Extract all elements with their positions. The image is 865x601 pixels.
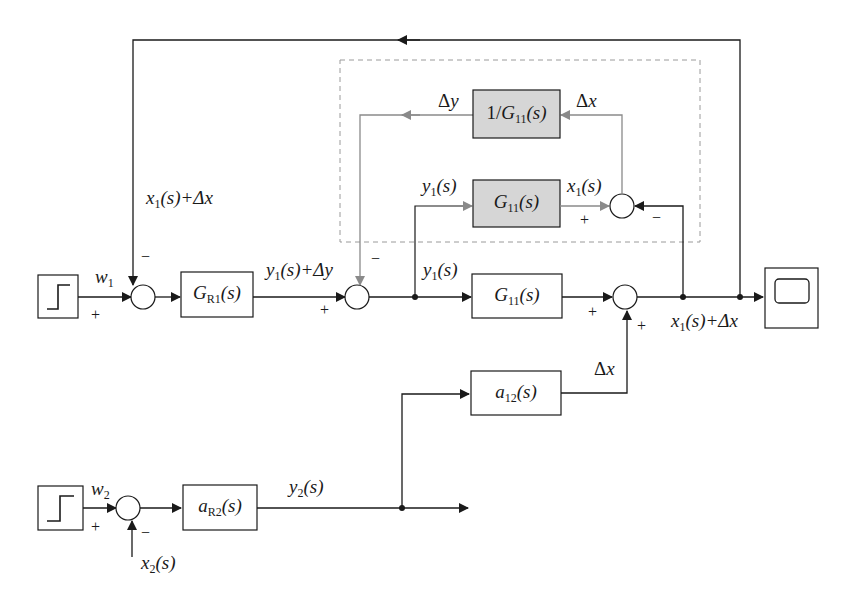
step-input-1-icon [38,275,78,318]
inner-sum-junction [610,194,634,218]
label-y2: y2(s) [289,477,324,499]
sign-sum3-bottom: + [637,318,646,334]
step-input-2-icon [38,486,83,530]
label-y1-model: y1(s) [422,176,457,198]
label-y1-main: y1(s) [423,260,458,282]
label-y1-plus-dy: y1(s)+Δy [266,260,333,282]
label-w2: w2 [91,479,110,501]
label-feedback-x1-plus-dx: x1(s)+Δx [146,188,213,210]
scope-icon [765,268,818,328]
sum-junction-2 [345,285,369,309]
G11-inverse-block: 1/G11(s) [473,90,560,138]
G11-main-block: G11(s) [472,274,562,318]
sum-junction-3 [613,285,637,309]
sign-sum2-top: − [371,251,380,267]
sum-junction-1 [131,285,155,309]
a12-block: a12(s) [471,371,561,415]
label-output-x1-plus-dx: x1(s)+Δx [671,311,738,333]
sign-sum4-bottom: − [141,525,150,541]
sign-sum3-left: + [588,304,597,320]
sign-sum2-left: + [320,302,329,318]
label-delta-x-coupling: Δx [594,359,615,378]
sign-inner-left: + [580,212,589,228]
sign-sum1-left: + [91,307,100,323]
sign-sum1-top: − [141,249,150,265]
label-w1: w1 [95,267,114,289]
sum-junction-4 [116,496,140,520]
aR2-block: aR2(s) [183,485,257,530]
G11-model-block: G11(s) [473,180,560,227]
label-delta-x-inner: Δx [576,91,597,110]
label-delta-y: Δy [438,91,459,110]
label-x1-model: x1(s) [567,176,602,198]
GR1-block: GR1(s) [181,272,253,317]
sign-inner-right: − [652,210,661,226]
label-x2: x2(s) [141,553,176,575]
sign-sum4-left: + [91,519,100,535]
diagram-canvas [0,0,865,601]
